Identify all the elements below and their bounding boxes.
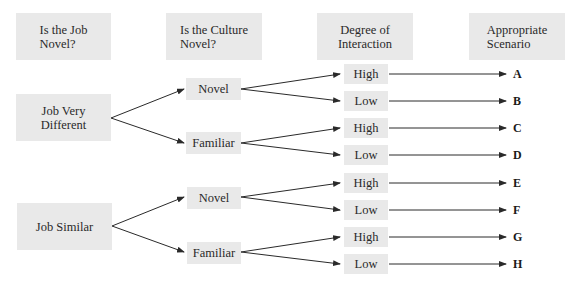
header-degree-line1: Degree of xyxy=(338,23,392,37)
header-degree-of-interaction: Degree ofInteraction xyxy=(317,13,413,60)
scenario-label: A xyxy=(513,67,522,82)
node-interaction-1: High xyxy=(344,64,388,84)
node-culture-label: Novel xyxy=(199,191,230,205)
scenario-label: B xyxy=(513,94,521,109)
node-interaction-label: Low xyxy=(355,94,378,108)
edge-familiar2-to-high xyxy=(241,237,340,252)
node-job-similar-label: Job Similar xyxy=(36,220,93,234)
node-culture-label: Familiar xyxy=(193,246,235,260)
node-interaction-2: Low xyxy=(344,91,388,111)
node-job-very-different-line1: Job Very xyxy=(41,104,87,118)
scenario-label: G xyxy=(513,230,522,245)
node-culture-label: Novel xyxy=(198,82,229,96)
header-job-novel-line1: Is the Job xyxy=(40,23,88,37)
edge-job-different-to-novel xyxy=(111,89,184,118)
scenario-label: E xyxy=(513,176,521,191)
header-job-novel: Is the JobNovel? xyxy=(16,13,111,60)
edge-novel1-to-low xyxy=(241,89,340,101)
node-interaction-5: High xyxy=(344,173,388,193)
edge-familiar2-to-low xyxy=(241,252,340,264)
node-job-very-different-line2: Different xyxy=(41,118,87,132)
header-culture-novel-line2: Novel? xyxy=(180,37,248,51)
node-interaction-7: High xyxy=(344,227,388,247)
edge-job-similar-to-familiar xyxy=(112,226,184,252)
node-interaction-label: Low xyxy=(355,148,378,162)
header-scenario-line2: Scenario xyxy=(487,37,547,51)
node-interaction-3: High xyxy=(344,118,388,138)
edge-novel2-to-high xyxy=(241,183,340,197)
node-interaction-6: Low xyxy=(344,200,388,220)
header-job-novel-line2: Novel? xyxy=(40,37,88,51)
edge-job-similar-to-novel xyxy=(112,197,184,226)
edge-job-different-to-familiar xyxy=(111,118,184,143)
node-interaction-label: High xyxy=(354,121,379,135)
node-interaction-label: High xyxy=(354,67,379,81)
edge-familiar1-to-low xyxy=(241,143,340,155)
header-culture-novel-line1: Is the Culture xyxy=(180,23,248,37)
edge-novel1-to-high xyxy=(241,74,340,89)
node-interaction-8: Low xyxy=(344,254,388,274)
node-interaction-4: Low xyxy=(344,145,388,165)
header-scenario-line1: Appropriate xyxy=(487,23,547,37)
scenario-label: H xyxy=(513,257,522,272)
node-interaction-label: Low xyxy=(355,257,378,271)
scenario-label: C xyxy=(513,121,522,136)
node-culture-label: Familiar xyxy=(192,136,234,150)
node-interaction-label: Low xyxy=(355,203,378,217)
edge-novel2-to-low xyxy=(241,197,340,210)
scenario-label: F xyxy=(513,203,520,218)
node-interaction-label: High xyxy=(354,230,379,244)
header-degree-line2: Interaction xyxy=(338,37,392,51)
node-job-very-different: Job VeryDifferent xyxy=(16,94,111,141)
node-culture-familiar-1: Familiar xyxy=(186,132,241,154)
node-culture-novel-1: Novel xyxy=(186,78,241,100)
scenario-label: D xyxy=(513,148,522,163)
node-culture-familiar-2: Familiar xyxy=(187,242,241,264)
header-culture-novel: Is the CultureNovel? xyxy=(166,13,262,60)
node-culture-novel-2: Novel xyxy=(187,187,241,209)
node-interaction-label: High xyxy=(354,176,379,190)
header-appropriate-scenario: AppropriateScenario xyxy=(469,13,565,60)
node-job-similar: Job Similar xyxy=(17,203,112,250)
edge-familiar1-to-high xyxy=(241,128,340,143)
